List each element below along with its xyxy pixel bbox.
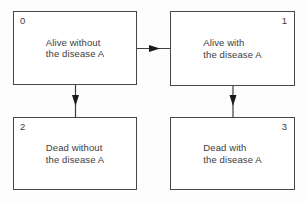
state-box-3: 3 Dead with the disease A [170, 117, 295, 190]
state-3-label-line1: Dead with [203, 142, 261, 154]
state-3-label-line2: the disease A [203, 154, 261, 166]
arrow-0-to-2-head-icon [72, 95, 79, 106]
state-0-number: 0 [20, 15, 25, 26]
state-2-label-line1: Dead without [46, 142, 104, 154]
state-1-label-line1: Alive with [203, 37, 261, 49]
state-transition-diagram: 0 Alive without the disease A 1 Alive wi… [0, 0, 307, 202]
state-0-label-line2: the disease A [46, 48, 104, 60]
state-0-label-line1: Alive without [46, 37, 104, 49]
state-2-label: Dead without the disease A [46, 142, 104, 165]
arrow-1-to-3 [230, 86, 237, 117]
state-box-1: 1 Alive with the disease A [170, 11, 295, 86]
state-1-number: 1 [282, 15, 287, 26]
state-2-number: 2 [20, 121, 25, 132]
state-2-label-line2: the disease A [46, 154, 104, 166]
arrow-0-to-2 [72, 85, 79, 117]
state-box-0: 0 Alive without the disease A [13, 11, 137, 85]
state-0-label: Alive without the disease A [46, 37, 104, 60]
arrow-0-to-1-head-icon [149, 45, 160, 52]
arrow-0-to-1 [137, 45, 170, 52]
state-1-label: Alive with the disease A [203, 37, 261, 60]
state-3-number: 3 [282, 121, 287, 132]
state-1-label-line2: the disease A [203, 49, 261, 61]
arrow-1-to-3-head-icon [230, 95, 237, 106]
state-box-2: 2 Dead without the disease A [13, 117, 137, 190]
state-3-label: Dead with the disease A [203, 142, 261, 165]
